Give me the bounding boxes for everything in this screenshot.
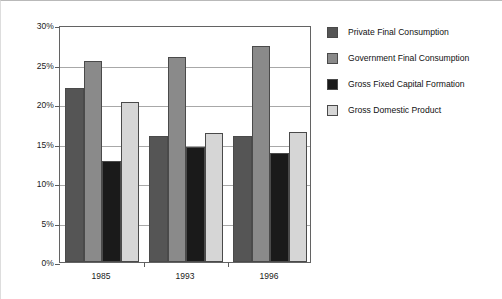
y-axis: 0%5%10%15%20%25%30% [13, 26, 54, 263]
legend: Private Final ConsumptionGovernment Fina… [327, 27, 497, 131]
bar [65, 88, 84, 262]
bar-group-container [60, 27, 310, 262]
legend-item: Private Final Consumption [327, 27, 497, 38]
y-tick-label: 20% [14, 100, 54, 110]
figure-container: 0%5%10%15%20%25%30% 198519931996 Private… [0, 0, 502, 299]
bar [186, 147, 205, 262]
x-tick-label: 1996 [260, 271, 279, 281]
y-tick-mark [55, 264, 60, 265]
legend-label: Gross Fixed Capital Formation [348, 79, 465, 90]
y-tick-label: 5% [14, 219, 54, 229]
bar [121, 102, 140, 262]
y-tick-label: 10% [14, 179, 54, 189]
legend-swatch-icon [327, 53, 338, 64]
bar [102, 161, 121, 262]
y-tick-label: 25% [14, 61, 54, 71]
bar [233, 136, 252, 262]
legend-item: Gross Domestic Product [327, 105, 497, 116]
x-tick-mark [144, 262, 145, 267]
x-tick-label: 1993 [176, 271, 195, 281]
bar [205, 133, 224, 262]
bar [289, 132, 308, 262]
legend-swatch-icon [327, 27, 338, 38]
x-tick-label: 1985 [92, 271, 111, 281]
plot-area [59, 26, 311, 263]
bar-chart: 0%5%10%15%20%25%30% 198519931996 [13, 19, 313, 284]
y-tick-label: 0% [14, 258, 54, 268]
bar [84, 61, 103, 262]
y-tick-label: 15% [14, 140, 54, 150]
bar [149, 136, 168, 262]
legend-label: Private Final Consumption [348, 27, 449, 38]
legend-label: Government Final Consumption [348, 53, 469, 64]
bar [168, 57, 187, 262]
bar [252, 46, 271, 262]
legend-label: Gross Domestic Product [348, 105, 441, 116]
x-tick-mark [228, 262, 229, 267]
y-tick-label: 30% [14, 21, 54, 31]
x-axis: 198519931996 [59, 268, 311, 284]
legend-swatch-icon [327, 79, 338, 90]
legend-item: Gross Fixed Capital Formation [327, 79, 497, 90]
legend-item: Government Final Consumption [327, 53, 497, 64]
legend-swatch-icon [327, 105, 338, 116]
bar [270, 153, 289, 262]
